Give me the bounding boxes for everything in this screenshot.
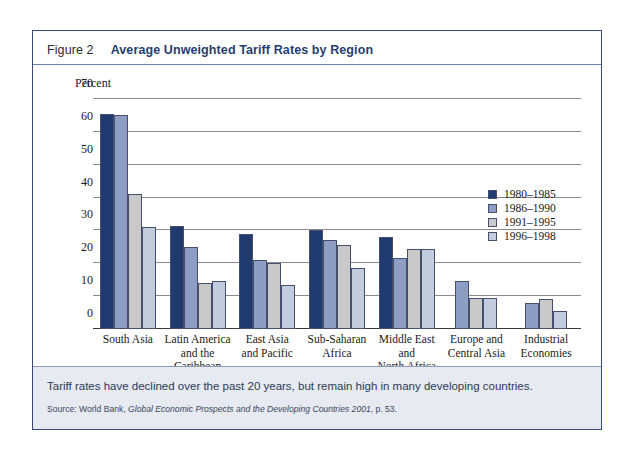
bar <box>267 263 281 329</box>
figure-title-bar: Figure 2 Average Unweighted Tariff Rates… <box>33 31 601 65</box>
bar-group <box>302 99 372 329</box>
legend-label: 1986–1990 <box>504 202 556 214</box>
legend-item: 1980–1985 <box>488 187 598 201</box>
y-tick-label-50: 50 <box>67 142 93 157</box>
x-axis-label-line: Industrial <box>503 333 589 347</box>
bar <box>309 230 323 329</box>
bar <box>351 268 365 329</box>
bar <box>114 115 128 329</box>
figure-container: Figure 2 Average Unweighted Tariff Rates… <box>32 30 602 430</box>
bar <box>539 299 553 329</box>
bar <box>323 240 337 329</box>
chart-legend: 1980–19851986–19901991–19951996–1998 <box>488 187 598 243</box>
bar <box>239 234 253 329</box>
figure-footer: Tariff rates have declined over the past… <box>33 366 601 429</box>
bar <box>407 249 421 330</box>
legend-swatch-icon <box>488 204 497 213</box>
legend-swatch-icon <box>488 218 497 227</box>
x-axis-label-line: Economies <box>503 347 589 361</box>
bar <box>483 298 497 329</box>
bar <box>281 285 295 329</box>
figure-title: Average Unweighted Tariff Rates by Regio… <box>111 43 373 57</box>
bar-group <box>163 99 233 329</box>
y-tick-label-40: 40 <box>67 175 93 190</box>
bar <box>212 281 226 329</box>
bar <box>393 258 407 329</box>
bar <box>469 298 483 329</box>
legend-label: 1996–1998 <box>504 230 556 242</box>
legend-label: 1991–1995 <box>504 216 556 228</box>
bar <box>525 303 539 329</box>
y-tick-label-20: 20 <box>67 240 93 255</box>
legend-item: 1996–1998 <box>488 229 598 243</box>
bar <box>379 237 393 329</box>
bar <box>337 245 351 329</box>
bar-group <box>372 99 442 329</box>
figure-source: Source: World Bank, Global Economic Pros… <box>47 403 587 415</box>
y-tick-label-30: 30 <box>67 207 93 222</box>
figure-caption: Tariff rates have declined over the past… <box>47 379 587 394</box>
bar <box>170 226 184 330</box>
source-title: Global Economic Prospects and the Develo… <box>128 404 371 414</box>
source-prefix: Source: World Bank, <box>47 404 128 414</box>
bar <box>100 114 114 329</box>
y-tick-label-60: 60 <box>67 109 93 124</box>
y-tick-label-10: 10 <box>67 273 93 288</box>
bar-group <box>93 99 163 329</box>
x-axis-label: IndustrialEconomies <box>503 333 589 360</box>
legend-item: 1986–1990 <box>488 201 598 215</box>
legend-swatch-icon <box>488 232 497 241</box>
chart-area: Percent 010203040506070 South AsiaLatin … <box>33 65 601 365</box>
y-axis: 010203040506070 <box>61 99 93 329</box>
legend-label: 1980–1985 <box>504 188 556 200</box>
legend-item: 1991–1995 <box>488 215 598 229</box>
bar <box>421 249 435 330</box>
bar <box>142 227 156 329</box>
bar <box>253 260 267 329</box>
bar <box>553 311 567 329</box>
bar-group <box>232 99 302 329</box>
bar <box>184 247 198 329</box>
bar <box>455 281 469 329</box>
source-suffix: , p. 53. <box>371 404 397 414</box>
bar <box>198 283 212 329</box>
figure-number: Figure 2 <box>47 43 94 57</box>
y-tick-label-0: 0 <box>67 306 93 321</box>
bar <box>128 194 142 329</box>
legend-swatch-icon <box>488 190 497 199</box>
y-tick-label-70: 70 <box>67 76 93 91</box>
